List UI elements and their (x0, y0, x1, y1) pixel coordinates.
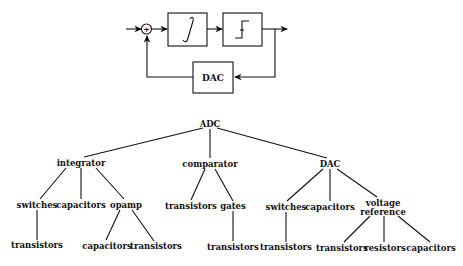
node-dac-switches-transistors: transistors (260, 242, 312, 252)
tree-connectors (37, 128, 430, 242)
node-dac-capacitors: capacitors (305, 202, 355, 212)
node-switches-transistors: transistors (11, 240, 63, 250)
node-comparator: comparator (182, 159, 238, 169)
node-dac-switches: switches (266, 202, 307, 212)
node-vref-resistors: resistors (364, 243, 406, 253)
node-voltage-reference-line2: reference (360, 207, 406, 217)
integrator-block (168, 13, 207, 46)
adc-diagram: + DAC ADC (0, 0, 463, 266)
node-opamp-transistors: transistors (130, 241, 182, 251)
sigma-delta-block-diagram: + DAC (126, 13, 287, 93)
node-integrator-capacitors: capacitors (56, 200, 106, 210)
node-integrator: integrator (57, 158, 106, 168)
dac-block-label: DAC (202, 73, 224, 83)
node-adc: ADC (199, 119, 221, 129)
node-vref-transistors: transistors (316, 243, 368, 253)
node-comparator-transistors: transistors (165, 201, 217, 211)
node-gates: gates (220, 201, 246, 211)
node-opamp-capacitors: capacitors (82, 241, 132, 251)
node-integrator-switches: switches (17, 200, 58, 210)
node-gates-transistors: transistors (207, 242, 259, 252)
node-vref-capacitors: capacitors (406, 243, 456, 253)
node-dac: DAC (320, 159, 341, 169)
node-opamp: opamp (110, 200, 142, 210)
plus-sign: + (143, 24, 150, 34)
